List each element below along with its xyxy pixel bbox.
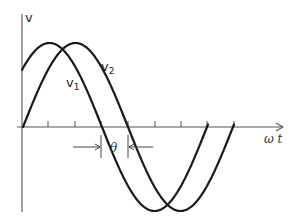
phase-label: θ [110, 141, 118, 155]
phase-angle-annotation: θ [73, 135, 153, 158]
phase-diagram: θ v ω t v2 v1 [0, 0, 290, 224]
y-axis-label: v [25, 10, 33, 25]
x-axis-label: ω t [264, 132, 283, 146]
x-axis-ticks [48, 121, 234, 127]
curve-label-v1: v1 [66, 75, 79, 92]
curve-label-v1-subscript: 1 [74, 82, 80, 92]
curve-label-v2: v2 [101, 59, 114, 76]
curve-label-v2-subscript: 2 [109, 66, 115, 76]
